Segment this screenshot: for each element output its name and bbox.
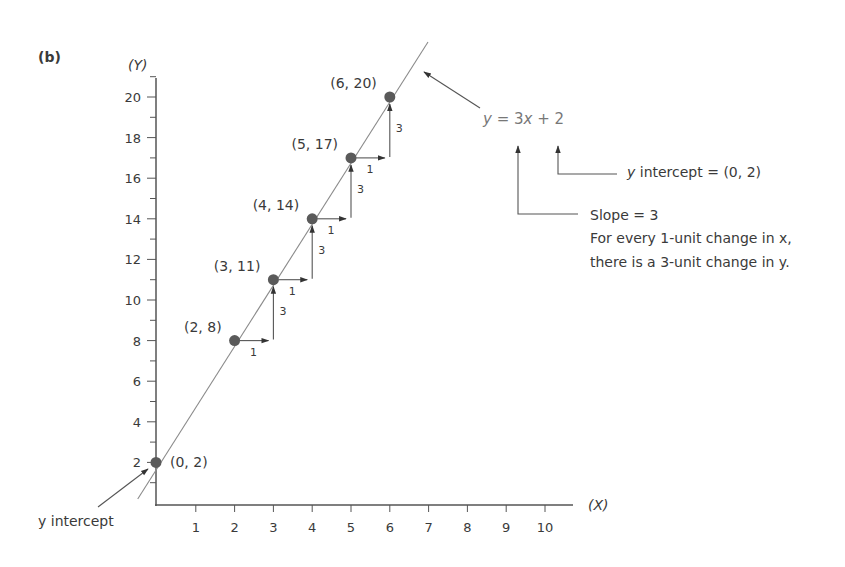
run-label: 1 <box>250 346 257 359</box>
x-tick-label: 7 <box>424 520 432 535</box>
x-tick-label: 2 <box>230 520 238 535</box>
x-tick-label: 3 <box>269 520 277 535</box>
slope-explanation-line1: For every 1-unit change in x, <box>590 230 792 246</box>
x-tick-label: 9 <box>502 520 510 535</box>
x-axis-label: (X) <box>588 497 609 513</box>
data-point <box>307 213 318 224</box>
point-label: (3, 11) <box>214 258 261 274</box>
data-point <box>346 152 357 163</box>
equation-arrow <box>424 72 480 108</box>
y-tick-label: 10 <box>124 293 141 308</box>
y-tick-label: 20 <box>124 90 141 105</box>
run-label: 1 <box>289 285 296 298</box>
y-tick-label: 16 <box>124 171 141 186</box>
x-tick-label: 6 <box>386 520 394 535</box>
data-point <box>151 457 162 468</box>
rise-label: 3 <box>357 183 364 196</box>
linear-equation-chart: (b) (Y) (X) 2468101214161820 12345678910… <box>0 0 845 567</box>
x-ticks: 12345678910 <box>192 505 554 535</box>
intercept-note: y intercept = (0, 2) <box>626 164 761 180</box>
data-point <box>384 92 395 103</box>
x-tick-label: 4 <box>308 520 316 535</box>
y-intercept-arrow <box>98 469 148 507</box>
x-tick-label: 5 <box>347 520 355 535</box>
data-points: (0, 2)(2, 8)(3, 11)(4, 14)(5, 17)(6, 20) <box>151 75 396 470</box>
equation-line <box>138 42 428 499</box>
y-tick-label: 14 <box>124 212 141 227</box>
y-intercept-label: y intercept <box>38 513 114 529</box>
y-tick-label: 6 <box>133 374 141 389</box>
x-tick-label: 1 <box>192 520 200 535</box>
point-label: (0, 2) <box>170 454 208 470</box>
run-label: 1 <box>328 224 335 237</box>
slope-note: Slope = 3 <box>590 207 658 223</box>
y-tick-label: 12 <box>124 252 141 267</box>
slope-explanation-line2: there is a 3-unit change in y. <box>590 254 790 270</box>
y-axis-label: (Y) <box>128 57 147 73</box>
rise-label: 3 <box>279 305 286 318</box>
y-tick-label: 8 <box>133 334 141 349</box>
x-tick-label: 10 <box>537 520 554 535</box>
data-point <box>268 274 279 285</box>
y-ticks: 2468101214161820 <box>124 77 156 483</box>
point-label: (2, 8) <box>184 319 222 335</box>
run-label: 1 <box>366 163 373 176</box>
equation-label: y = 3x + 2 <box>482 110 564 128</box>
y-tick-label: 4 <box>133 415 141 430</box>
point-label: (6, 20) <box>330 75 377 91</box>
slope-pointer-arrow <box>518 146 578 214</box>
y-tick-label: 18 <box>124 131 141 146</box>
point-label: (5, 17) <box>291 136 338 152</box>
point-label: (4, 14) <box>253 197 300 213</box>
rise-label: 3 <box>318 244 325 257</box>
panel-label: (b) <box>38 49 61 65</box>
y-tick-label: 2 <box>133 455 141 470</box>
x-tick-label: 8 <box>463 520 471 535</box>
data-point <box>229 335 240 346</box>
intercept-pointer-arrow <box>558 146 617 174</box>
rise-label: 3 <box>396 122 403 135</box>
